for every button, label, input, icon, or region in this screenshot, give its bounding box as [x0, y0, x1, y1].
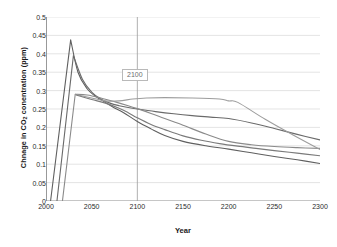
gridlines — [46, 17, 320, 201]
plot-svg — [46, 17, 320, 201]
x-axis-tick-label: 2050 — [84, 203, 100, 210]
data-series-group — [51, 40, 320, 201]
co2-concentration-line-chart: Chnage in CO2 conentration (ppm) 00.050.… — [0, 0, 337, 247]
x-axis-tick-label: 2250 — [267, 203, 283, 210]
x-axis-tick-label: 2000 — [38, 203, 54, 210]
y-axis-tick-label: 0.1 — [18, 161, 46, 168]
x-axis-title: Year — [46, 226, 320, 235]
y-axis-tick-label: 0.5 — [18, 14, 46, 21]
y-axis-tick-label: 0.45 — [18, 32, 46, 39]
x-axis-tick-labels: 2000205021002150220022502300 — [46, 203, 320, 217]
x-axis-tick-label: 2100 — [130, 203, 146, 210]
x-axis-tick-label: 2300 — [312, 203, 328, 210]
data-series-line — [51, 40, 320, 201]
x-axis-tick-label: 2150 — [175, 203, 191, 210]
y-axis-tick-label: 0.35 — [18, 69, 46, 76]
y-axis-tick-label: 0.4 — [18, 50, 46, 57]
y-axis-tick-label: 0.15 — [18, 142, 46, 149]
x-axis-tick-label: 2200 — [221, 203, 237, 210]
data-series-line — [75, 94, 320, 149]
plot-area — [46, 17, 320, 201]
data-series-line — [62, 94, 320, 201]
year-2100-annotation-label: 2100 — [122, 69, 148, 81]
y-axis-tick-label: 0.2 — [18, 124, 46, 131]
y-axis-tick-label: 0.05 — [18, 179, 46, 186]
y-axis-tick-label: 0.25 — [18, 106, 46, 113]
y-axis-tick-label: 0.3 — [18, 87, 46, 94]
